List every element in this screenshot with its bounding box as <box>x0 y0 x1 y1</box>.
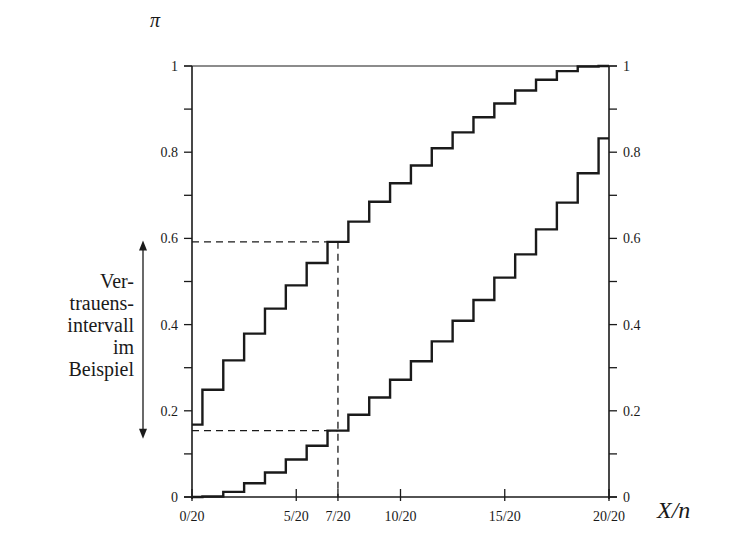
arrow-up-icon <box>139 240 147 250</box>
y-tick-label-right: 0.8 <box>623 145 641 160</box>
y-tick-label-right: 0.4 <box>623 318 641 333</box>
x-tick-label: 5/20 <box>284 509 309 524</box>
x-tick-label: 15/20 <box>489 509 521 524</box>
curves <box>192 66 609 497</box>
y-tick-label-right: 1 <box>623 59 630 74</box>
note-line: Beispiel <box>67 358 134 380</box>
y-tick-label-right: 0 <box>623 490 630 505</box>
note-line: im <box>67 336 134 358</box>
lower-bound-curve <box>192 138 609 497</box>
arrow-down-icon <box>139 429 147 439</box>
note-line: intervall <box>67 314 134 336</box>
y-tick-label: 0.2 <box>161 404 179 419</box>
y-tick-label: 0.6 <box>161 231 179 246</box>
axes: 000.20.20.40.40.60.60.80.8110/205/207/20… <box>161 59 641 524</box>
note-line: trauens- <box>67 292 134 314</box>
x-tick-label: 20/20 <box>593 509 625 524</box>
note-line: Ver- <box>67 270 134 292</box>
upper-bound-curve <box>192 66 609 425</box>
x-tick-label: 7/20 <box>326 509 351 524</box>
y-tick-label-right: 0.6 <box>623 231 641 246</box>
x-tick-label: 0/20 <box>180 509 205 524</box>
y-tick-label-right: 0.2 <box>623 404 641 419</box>
annotations <box>139 240 338 497</box>
x-tick-label: 10/20 <box>385 509 417 524</box>
y-tick-label: 1 <box>171 59 178 74</box>
y-tick-label: 0.8 <box>161 145 179 160</box>
confidence-interval-note: Ver- trauens- intervall im Beispiel <box>67 270 134 380</box>
y-tick-label: 0 <box>171 490 178 505</box>
y-tick-label: 0.4 <box>161 318 179 333</box>
y-axis-label: π <box>150 9 161 31</box>
x-axis-label: X/n <box>656 497 690 523</box>
